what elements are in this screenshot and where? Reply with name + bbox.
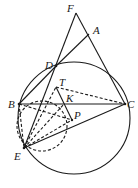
label-E: E (13, 150, 21, 162)
label-P: P (73, 109, 81, 121)
point-P (71, 119, 73, 121)
line-BE (19, 104, 24, 148)
point-D (55, 65, 58, 68)
point-B (18, 103, 21, 106)
label-B: B (8, 98, 15, 110)
point-E (23, 147, 26, 150)
label-D: D (44, 59, 53, 71)
line-DA (56, 34, 89, 66)
label-T: T (59, 76, 66, 88)
line-FC (76, 13, 125, 104)
diagram-canvas: F A D T B K C P E (0, 0, 138, 188)
geometry-diagram: F A D T B K C P E (0, 0, 138, 188)
label-C: C (127, 98, 135, 110)
label-A: A (92, 24, 100, 36)
label-F: F (66, 2, 74, 14)
label-K: K (65, 92, 74, 104)
point-C (124, 103, 127, 106)
